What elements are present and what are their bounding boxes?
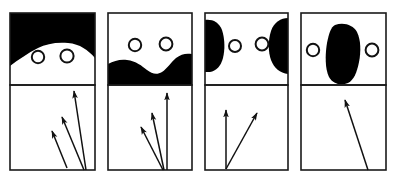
circle-left bbox=[32, 51, 44, 63]
circle-right bbox=[256, 38, 269, 51]
circle-left bbox=[229, 40, 241, 52]
circle-left bbox=[129, 39, 141, 51]
circle-right bbox=[366, 44, 379, 57]
circle-right bbox=[160, 38, 173, 51]
four-panel-line-drawing bbox=[0, 0, 393, 177]
circle-right bbox=[60, 49, 73, 62]
figure-container bbox=[0, 0, 393, 177]
circle-left bbox=[307, 44, 319, 56]
